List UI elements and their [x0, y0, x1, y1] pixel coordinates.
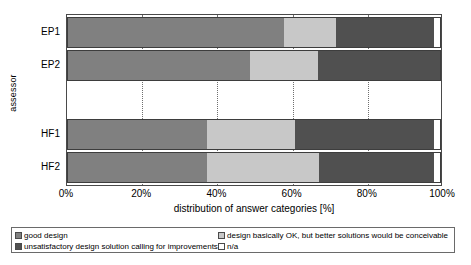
bar-segment — [295, 119, 433, 150]
bar-segment — [67, 119, 207, 150]
legend-item[interactable]: good design — [15, 230, 225, 241]
legend-label: unsatisfactory design solution calling f… — [24, 242, 218, 252]
x-tick-label: 20% — [131, 188, 151, 199]
bar-segment — [207, 152, 319, 183]
legend-item[interactable]: n/a — [218, 241, 454, 252]
bar-segment — [318, 50, 441, 81]
bar-segment — [67, 17, 284, 48]
legend-label: good design — [24, 231, 68, 241]
stacked-bar-chart-figure: assessor EP1EP2HF1HF2 0%20%40%60%80%100%… — [0, 0, 471, 265]
plot-area — [66, 14, 442, 186]
x-tick-label: 40% — [206, 188, 226, 199]
bar-segment — [67, 152, 207, 183]
y-tick-label-ep2: EP2 — [14, 59, 60, 70]
x-tick-label: 80% — [357, 188, 377, 199]
legend-swatch-icon — [15, 232, 22, 239]
y-tick-label-hf1: HF1 — [14, 128, 60, 139]
legend-swatch-icon — [218, 232, 225, 239]
legend-item[interactable]: design basically OK, but better solution… — [218, 230, 454, 241]
bar-segment — [67, 50, 250, 81]
x-axis-title: distribution of answer categories [%] — [66, 203, 442, 214]
bar-row — [67, 50, 441, 81]
bar-segment — [434, 119, 441, 150]
legend-column-left: good designunsatisfactory design solutio… — [15, 230, 225, 252]
x-tick-label: 0% — [59, 188, 73, 199]
bar-row — [67, 119, 441, 150]
bar-segment — [319, 152, 433, 183]
y-tick-label-ep1: EP1 — [14, 26, 60, 37]
bar-segment — [336, 17, 433, 48]
y-tick-label-hf2: HF2 — [14, 161, 60, 172]
bar-segment — [250, 50, 317, 81]
y-tick-label-group: EP1EP2HF1HF2 — [8, 14, 60, 186]
bar-segment — [284, 17, 336, 48]
bar-segment — [434, 17, 441, 48]
legend-swatch-icon — [15, 243, 22, 250]
bar-row — [67, 17, 441, 48]
legend-item[interactable]: unsatisfactory design solution calling f… — [15, 241, 225, 252]
legend-swatch-icon — [218, 243, 225, 250]
bar-segment — [434, 152, 441, 183]
bar-segment — [207, 119, 295, 150]
bars-layer — [67, 15, 441, 185]
chart-legend: good designunsatisfactory design solutio… — [11, 227, 455, 253]
x-tick-label: 100% — [429, 188, 455, 199]
x-tick-label: 60% — [282, 188, 302, 199]
bar-row — [67, 152, 441, 183]
legend-column-right: design basically OK, but better solution… — [218, 230, 454, 252]
legend-label: design basically OK, but better solution… — [227, 231, 448, 241]
legend-label: n/a — [227, 242, 238, 252]
